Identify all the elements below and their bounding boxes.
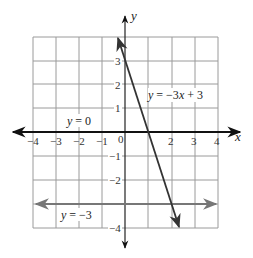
label-y-equals-neg3: y = −3 (59, 208, 101, 222)
y-axis-label: y (129, 8, 137, 23)
svg-text:y = 0: y = 0 (66, 114, 91, 128)
svg-text:−1: −1 (96, 135, 108, 147)
svg-text:−1: −1 (109, 150, 121, 162)
svg-text:−4: −4 (27, 135, 39, 147)
label-y-equals-neg3x-plus-3: y = −3x + 3 (147, 88, 208, 102)
svg-text:−2: −2 (73, 135, 85, 147)
svg-text:−2: −2 (109, 174, 121, 186)
coordinate-graph: y x −4 −3 −2 −1 0 2 3 4 3 2 1 −1 −2 −4 y… (0, 0, 253, 258)
svg-text:−3: −3 (50, 135, 62, 147)
svg-text:1: 1 (115, 102, 121, 114)
svg-text:y = −3x + 3: y = −3x + 3 (147, 88, 203, 102)
svg-text:2: 2 (168, 135, 174, 147)
x-axis-label: x (234, 129, 241, 144)
svg-text:−4: −4 (109, 222, 121, 234)
svg-text:3: 3 (115, 55, 121, 67)
svg-text:y = −3: y = −3 (60, 208, 92, 222)
label-y-equals-0: y = 0 (65, 114, 95, 128)
x-tick-labels: −4 −3 −2 −1 0 2 3 4 (27, 133, 220, 147)
svg-text:0: 0 (118, 133, 124, 145)
svg-text:2: 2 (115, 79, 121, 91)
svg-text:4: 4 (214, 135, 220, 147)
svg-text:3: 3 (191, 135, 197, 147)
